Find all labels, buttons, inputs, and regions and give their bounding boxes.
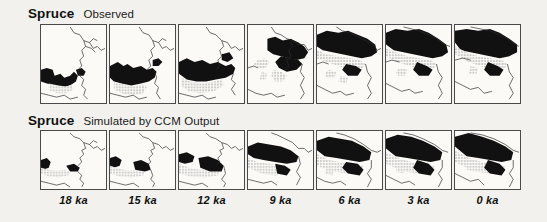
- panel-row-simulated: [40, 130, 521, 190]
- time-label-6ka: 6 ka: [316, 193, 383, 207]
- map-panel-simulated-0ka[interactable]: [454, 130, 521, 190]
- panel-cell-simulated-6ka: [316, 130, 383, 190]
- panel-cell-simulated-0ka: [454, 130, 521, 190]
- time-label-0ka: 0 ka: [454, 193, 521, 207]
- map-panel-simulated-6ka[interactable]: [316, 130, 383, 190]
- row-qualifier-label: Observed: [83, 8, 134, 20]
- panel-row-observed: [40, 24, 521, 104]
- map-panel-simulated-18ka[interactable]: [40, 130, 107, 190]
- panel-cell-observed-6ka: [316, 24, 383, 104]
- panel-cell-simulated-12ka: [178, 130, 245, 190]
- map-panel-simulated-15ka[interactable]: [109, 130, 176, 190]
- panel-cell-observed-0ka: [454, 24, 521, 104]
- map-panel-simulated-3ka[interactable]: [385, 130, 452, 190]
- panel-cell-observed-12ka: [178, 24, 245, 104]
- time-label-3ka: 3 ka: [385, 193, 452, 207]
- time-label-9ka: 9 ka: [247, 193, 314, 207]
- row-header-simulated: SpruceSimulated by CCM Output: [28, 112, 219, 128]
- panel-cell-observed-18ka: [40, 24, 107, 104]
- map-panel-observed-3ka[interactable]: [385, 24, 452, 104]
- map-panel-simulated-9ka[interactable]: [247, 130, 314, 190]
- time-label-12ka: 12 ka: [178, 193, 245, 207]
- row-qualifier-label: Simulated by CCM Output: [83, 115, 219, 127]
- map-panel-observed-15ka[interactable]: [109, 24, 176, 104]
- panel-cell-simulated-15ka: [109, 130, 176, 190]
- row-header-observed: SpruceObserved: [28, 5, 134, 21]
- panel-cell-simulated-18ka: [40, 130, 107, 190]
- panel-cell-observed-15ka: [109, 24, 176, 104]
- map-panel-observed-6ka[interactable]: [316, 24, 383, 104]
- panel-cell-simulated-3ka: [385, 130, 452, 190]
- row-taxon-label: Spruce: [28, 113, 74, 128]
- panel-cell-simulated-9ka: [247, 130, 314, 190]
- map-panel-observed-0ka[interactable]: [454, 24, 521, 104]
- panel-cell-observed-9ka: [247, 24, 314, 104]
- map-panel-simulated-12ka[interactable]: [178, 130, 245, 190]
- map-panel-observed-9ka[interactable]: [247, 24, 314, 104]
- map-panel-observed-12ka[interactable]: [178, 24, 245, 104]
- time-axis: 18 ka 15 ka 12 ka 9 ka 6 ka 3 ka 0 ka: [40, 193, 521, 207]
- time-label-18ka: 18 ka: [40, 193, 107, 207]
- figure-spruce-distribution: SpruceObserved: [0, 0, 547, 222]
- row-taxon-label: Spruce: [28, 6, 74, 21]
- time-label-15ka: 15 ka: [109, 193, 176, 207]
- map-panel-observed-18ka[interactable]: [40, 24, 107, 104]
- panel-cell-observed-3ka: [385, 24, 452, 104]
